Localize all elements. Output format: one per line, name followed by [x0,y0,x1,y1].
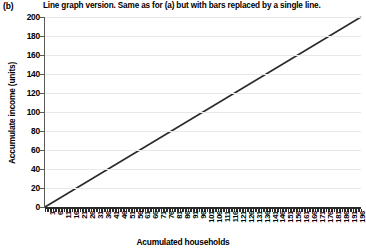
y-tick-mark [40,112,45,113]
y-tick-mark [40,188,45,189]
y-tick-label: 200 [27,13,40,22]
y-tick-label: 100 [27,108,40,117]
y-tick-mark [40,93,45,94]
y-tick-label: 140 [27,70,40,79]
y-tick-label: 80 [31,127,40,136]
x-axis-title: Acumulated households [0,237,366,247]
gridline-horizontal [45,150,361,151]
y-tick-label: 40 [31,165,40,174]
x-axis-tick-labels: 1611162126313641465156616671768186919610… [45,211,361,235]
y-tick-mark [40,17,45,18]
y-tick-mark [40,131,45,132]
y-tick-mark [40,74,45,75]
figure-caption: (b) Line graph version. Same as for (a) … [0,0,366,14]
y-tick-label: 60 [31,146,40,155]
gridline-horizontal [45,188,361,189]
gridline-horizontal [45,74,361,75]
y-tick-mark [40,169,45,170]
gridline-horizontal [45,36,361,37]
y-tick-mark [40,150,45,151]
gridline-horizontal [45,55,361,56]
y-tick-label: 20 [31,184,40,193]
gridline-horizontal [45,112,361,113]
panel-label: (b) [3,1,14,11]
y-axis-tick-labels: 020406080100120140160180200 [14,13,40,209]
gridline-horizontal [45,131,361,132]
figure-panel-b: (b) Line graph version. Same as for (a) … [0,0,366,249]
plot-area [45,17,361,207]
gridline-horizontal [45,93,361,94]
y-tick-mark [40,207,45,208]
caption-text: Line graph version. Same as for (a) but … [43,1,321,10]
y-tick-label: 180 [27,32,40,41]
y-tick-label: 160 [27,51,40,60]
gridline-horizontal [45,169,361,170]
gridline-horizontal [45,17,361,18]
y-tick-label: 120 [27,89,40,98]
x-tick-label: 196 [358,211,366,223]
y-tick-mark [40,55,45,56]
y-tick-mark [40,36,45,37]
